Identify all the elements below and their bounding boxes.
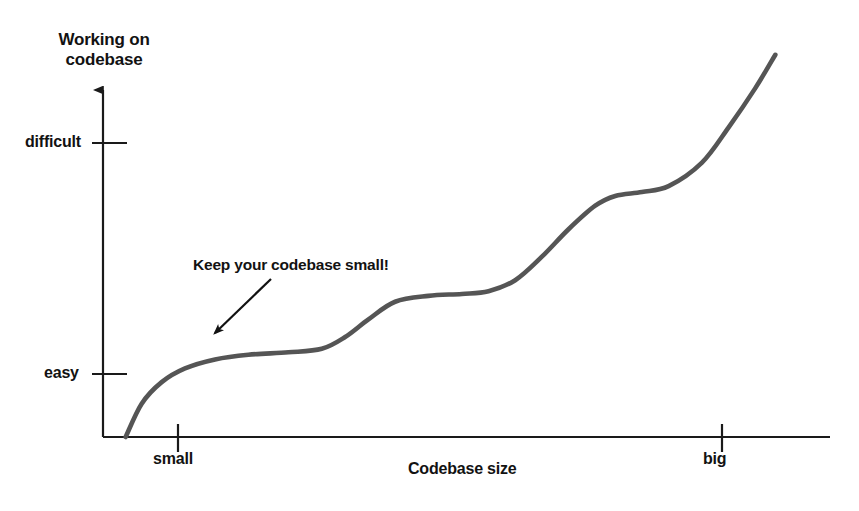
- chart-figure: Working on codebase Codebase size diffic…: [0, 0, 859, 511]
- y-tick-label-difficult: difficult: [25, 133, 81, 152]
- x-tick-label-small: small: [153, 450, 193, 469]
- chart-canvas: [0, 0, 859, 511]
- x-axis-title: Codebase size: [408, 460, 517, 479]
- data-series-curve: [126, 55, 776, 437]
- y-tick-label-easy: easy: [44, 364, 79, 383]
- x-tick-label-big: big: [703, 450, 726, 469]
- annotation-arrow: [215, 279, 271, 333]
- annotation-label: Keep your codebase small!: [193, 256, 389, 274]
- y-axis-title: Working on codebase: [52, 30, 156, 70]
